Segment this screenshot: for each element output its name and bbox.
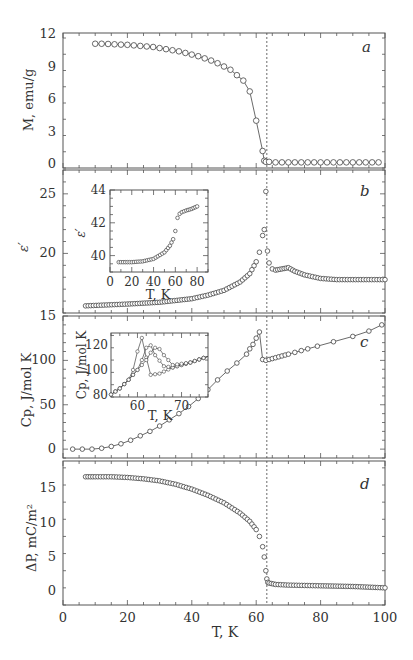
ytick-label: 10: [39, 515, 56, 530]
panel-letter-c: c: [360, 333, 369, 351]
ylabel-a: M, emu/g: [21, 69, 36, 132]
ytick-label: 0: [48, 583, 56, 598]
svg-text:80: 80: [93, 388, 108, 402]
data-point: [225, 369, 230, 374]
xtick-label: 80: [312, 610, 329, 625]
data-point: [286, 160, 292, 166]
data-point: [251, 342, 256, 347]
data-point: [163, 46, 169, 52]
data-point: [254, 336, 259, 341]
xtick-label: 40: [184, 610, 201, 625]
ytick-label: 25: [39, 186, 56, 201]
data-point: [92, 41, 98, 47]
data-point: [150, 44, 156, 50]
data-point: [138, 434, 143, 439]
data-point: [119, 442, 124, 447]
ytick-label: 100: [31, 352, 56, 367]
data-point: [99, 41, 105, 47]
ytick-label: 15: [39, 308, 56, 323]
ytick-label: 0: [48, 156, 56, 171]
data-point: [195, 53, 201, 59]
inset-c-ylabel: Cp, J/mol K: [75, 330, 89, 400]
data-point: [318, 160, 324, 166]
data-point: [315, 344, 320, 349]
data-point: [202, 56, 208, 62]
data-point: [131, 43, 137, 49]
ytick-label: 5: [48, 549, 56, 564]
ytick-label: 3: [48, 124, 56, 139]
data-point: [105, 41, 111, 47]
data-point: [292, 160, 298, 166]
data-point: [286, 352, 291, 357]
panel-letter-d: d: [360, 475, 370, 493]
figure: 0369122025050100150510150204060801004042…: [0, 0, 413, 660]
axes-frame: [63, 461, 385, 605]
data-point: [299, 348, 304, 353]
data-point: [148, 429, 153, 434]
data-point: [350, 160, 356, 166]
data-point: [247, 347, 252, 352]
xtick-label: 60: [248, 610, 265, 625]
data-point: [262, 227, 267, 232]
data-point: [144, 44, 150, 50]
data-point: [363, 160, 369, 166]
data-point: [324, 160, 330, 166]
ytick-label: 6: [48, 91, 56, 106]
svg-text:20: 20: [124, 275, 139, 289]
data-point: [356, 160, 362, 166]
data-point: [257, 250, 262, 255]
inset-b-ylabel: ε′: [74, 228, 88, 237]
data-point: [331, 160, 337, 166]
svg-text:42: 42: [91, 216, 106, 230]
data-point: [262, 555, 267, 560]
data-point: [305, 160, 311, 166]
ytick-label: 12: [39, 26, 56, 41]
data-point: [80, 447, 85, 452]
data-point: [298, 160, 304, 166]
data-point: [383, 586, 388, 591]
data-point: [266, 159, 272, 165]
data-point: [254, 259, 259, 264]
data-point: [215, 378, 220, 383]
data-point: [234, 72, 240, 78]
svg-text:70: 70: [174, 399, 189, 413]
data-point: [260, 233, 265, 238]
data-point: [157, 45, 163, 51]
ytick-label: 9: [48, 59, 56, 74]
xlabel: T, K: [212, 624, 239, 640]
data-point: [379, 323, 384, 328]
data-point: [257, 330, 262, 335]
data-point: [99, 446, 104, 451]
data-point: [208, 58, 214, 64]
data-point: [235, 361, 240, 366]
ylabel-b: ε′: [16, 242, 31, 252]
data-point: [344, 160, 350, 166]
inset-c-xlabel: T, K: [148, 408, 173, 423]
inset-b-xlabel: T, K: [146, 287, 171, 302]
data-point: [260, 148, 266, 154]
data-point: [176, 49, 182, 55]
data-point: [109, 444, 114, 449]
data-point: [247, 89, 253, 95]
ytick-label: 50: [39, 397, 56, 412]
data-point: [128, 438, 133, 443]
data-point: [157, 424, 162, 429]
data-point: [267, 261, 272, 266]
svg-text:80: 80: [189, 275, 204, 289]
data-point: [260, 544, 265, 549]
ylabel-d: ΔP, mC/m²: [24, 504, 39, 572]
data-point: [183, 50, 189, 56]
xtick-label: 20: [119, 610, 136, 625]
data-point: [383, 277, 388, 282]
data-point: [264, 189, 269, 194]
data-point: [376, 160, 382, 166]
panel-letter-a: a: [362, 38, 371, 56]
ytick-label: 0: [48, 441, 56, 456]
data-point: [118, 42, 124, 48]
data-point: [137, 43, 143, 49]
data-point: [112, 41, 118, 47]
xtick-label: 0: [59, 610, 67, 625]
data-point: [257, 534, 262, 539]
data-point: [305, 347, 310, 352]
data-point: [369, 160, 375, 166]
